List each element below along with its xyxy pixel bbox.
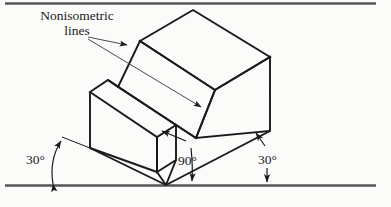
- nonisometric-lines-callout: Nonisometric lines: [31, 8, 123, 38]
- step-riser-left: [108, 80, 118, 87]
- low-block-top-face: [90, 80, 176, 137]
- angle-left-arc-arrow: [52, 141, 61, 184]
- low-block-front-bottom-hint: [90, 137, 157, 148]
- angle-label-center: 90°: [178, 153, 197, 168]
- angle-label-left: 30°: [26, 152, 45, 167]
- angle-left-extension-line: [62, 137, 90, 148]
- angle-center-arrow-to-vertical: [162, 131, 186, 141]
- callout-line-2: lines: [31, 23, 123, 38]
- technical-drawing-figure: Nonisometric lines 30° 90° 30°: [0, 0, 391, 207]
- inclined-face: [118, 41, 215, 138]
- low-block-front-bottom-edge: [90, 148, 157, 172]
- angle-left-group: [52, 137, 90, 184]
- leader-line-lower: [88, 39, 201, 107]
- callout-leaders: [88, 37, 201, 107]
- angle-label-right: 30°: [258, 152, 277, 167]
- callout-line-1: Nonisometric: [40, 8, 114, 23]
- right-side-face: [196, 57, 270, 138]
- top-face: [140, 10, 270, 90]
- step-riser-right: [176, 125, 196, 138]
